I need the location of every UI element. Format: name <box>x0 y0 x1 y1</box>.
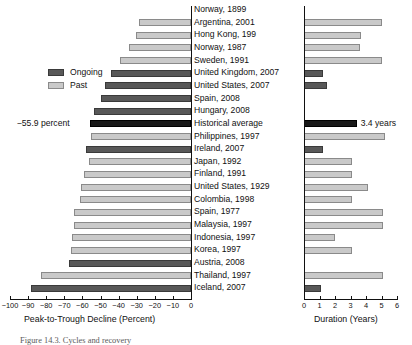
duration-bar <box>304 19 382 26</box>
category-label: Spain, 2008 <box>194 94 240 103</box>
duration-bar <box>304 196 352 203</box>
legend-swatch-ongoing <box>48 69 64 76</box>
decline-bar <box>80 196 191 203</box>
duration-bar <box>304 32 361 39</box>
decline-axis-title: Peak-to-Trough Decline (Percent) <box>24 314 155 324</box>
duration-bar <box>304 120 357 127</box>
decline-bar <box>101 95 192 102</box>
category-label: Sweden, 1991 <box>194 56 249 65</box>
decline-bar <box>31 285 191 292</box>
legend-swatch-past <box>48 82 64 89</box>
decline-bar <box>72 234 191 241</box>
category-label: Iceland, 2007 <box>194 283 246 292</box>
duration-bar <box>304 272 383 279</box>
axis-tick <box>137 296 138 300</box>
axis-tick <box>397 296 398 300</box>
annotation-decline-average: −55.9 percent <box>17 119 70 128</box>
decline-bar <box>81 184 191 191</box>
decline-bar <box>129 44 191 51</box>
decline-bar <box>105 82 191 89</box>
decline-bar <box>71 247 191 254</box>
duration-bar <box>304 184 368 191</box>
decline-bar <box>74 222 191 229</box>
category-label: United States, 2007 <box>194 81 270 90</box>
axis-tick <box>382 296 383 300</box>
axis-tick <box>46 296 47 300</box>
category-label: Indonesia, 1997 <box>194 233 255 242</box>
category-label: Hungary, 2008 <box>194 106 250 115</box>
annotation-duration-average: 3.4 years <box>361 119 396 128</box>
axis-tick <box>155 296 156 300</box>
decline-bar <box>139 19 191 26</box>
category-label: Spain, 1977 <box>194 207 240 216</box>
axis-tick <box>28 296 29 300</box>
duration-bar <box>304 44 360 51</box>
axis-tick <box>173 296 174 300</box>
axis-tick <box>10 296 11 300</box>
category-label: Hong Kong, 199 <box>194 30 256 39</box>
decline-bar <box>74 209 191 216</box>
duration-axis-title: Duration (Years) <box>314 314 378 324</box>
axis-tick <box>351 296 352 300</box>
decline-bar <box>94 108 191 115</box>
decline-bar <box>41 272 191 279</box>
decline-bar <box>120 57 191 64</box>
figure-root: −100−90−80−70−60−50−40−30−20−100 Peak-to… <box>0 0 412 345</box>
decline-bar <box>111 70 191 77</box>
category-label: Ireland, 2007 <box>194 144 244 153</box>
axis-tick-label: 0 <box>180 302 202 310</box>
legend-label-past: Past <box>70 81 87 90</box>
figure-caption: Figure 14.3. Cycles and recovery <box>20 336 131 345</box>
duration-bar <box>304 158 352 165</box>
axis-tick <box>320 296 321 300</box>
decline-bar <box>90 120 191 127</box>
category-label: United States, 1929 <box>194 182 270 191</box>
axis-tick <box>101 296 102 300</box>
duration-zero-axis <box>304 6 305 299</box>
category-label: Historical average <box>194 119 263 128</box>
category-label: United Kingdom, 2007 <box>194 68 279 77</box>
category-label: Colombia, 1998 <box>194 195 254 204</box>
axis-tick <box>304 296 305 300</box>
duration-bar <box>304 247 352 254</box>
duration-bar <box>304 285 321 292</box>
category-label: Norway, 1899 <box>194 5 246 14</box>
duration-bar <box>304 82 327 89</box>
decline-bar <box>86 146 191 153</box>
axis-tick-label: 6 <box>388 302 406 310</box>
duration-bar <box>304 171 352 178</box>
duration-bar <box>304 146 323 153</box>
duration-bar <box>304 234 335 241</box>
duration-bar <box>304 209 383 216</box>
axis-tick <box>335 296 336 300</box>
axis-tick <box>64 296 65 300</box>
duration-bar <box>304 57 382 64</box>
axis-tick <box>82 296 83 300</box>
decline-zero-axis <box>191 6 192 299</box>
axis-tick <box>191 296 192 300</box>
category-label: Thailand, 1997 <box>194 271 251 280</box>
decline-bar <box>69 260 191 267</box>
axis-tick <box>366 296 367 300</box>
category-label: Norway, 1987 <box>194 43 246 52</box>
category-label: Finland, 1991 <box>194 169 246 178</box>
legend-label-ongoing: Ongoing <box>70 68 103 77</box>
decline-bar <box>84 171 191 178</box>
category-label: Korea, 1997 <box>194 245 241 254</box>
decline-bar <box>136 32 191 39</box>
duration-bar <box>304 70 323 77</box>
category-label: Philippines, 1997 <box>194 132 259 141</box>
duration-bar <box>304 222 383 229</box>
decline-bar <box>89 158 191 165</box>
category-label: Japan, 1992 <box>194 157 241 166</box>
category-label: Malaysia, 1997 <box>194 220 252 229</box>
category-label: Argentina, 2001 <box>194 18 255 27</box>
category-label: Austria, 2008 <box>194 258 245 267</box>
duration-bar <box>304 133 385 140</box>
axis-tick <box>119 296 120 300</box>
decline-bar <box>91 133 191 140</box>
